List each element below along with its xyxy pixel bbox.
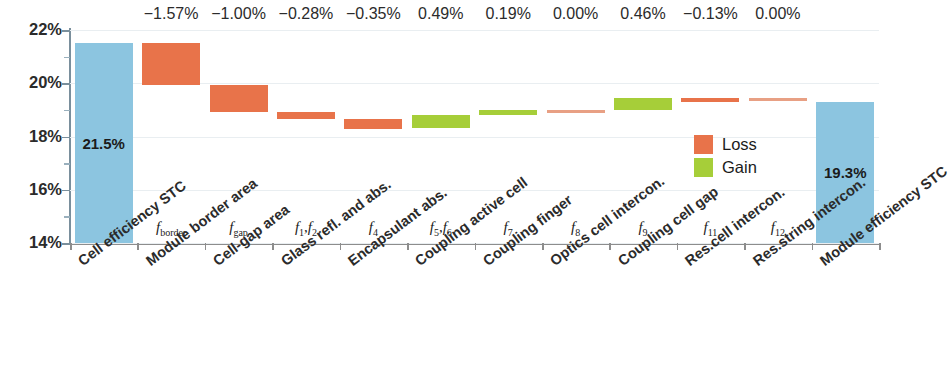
delta-label: −0.35% <box>346 5 401 23</box>
bar-gain <box>614 98 672 110</box>
y-axis-major-tick <box>62 190 70 192</box>
bar-loss <box>344 119 402 128</box>
y-axis-minor-tick <box>64 57 70 58</box>
y-axis-minor-tick <box>64 110 70 111</box>
bar-loss <box>210 85 268 112</box>
delta-label: −0.28% <box>279 5 334 23</box>
legend-label-gain: Gain <box>722 158 757 177</box>
bar-value-label: 21.5% <box>82 135 125 152</box>
bar-gain <box>412 115 470 128</box>
delta-label: 0.00% <box>755 5 800 23</box>
delta-label: 0.19% <box>486 5 531 23</box>
legend-swatch-loss-icon <box>694 135 713 154</box>
y-axis-tick-label: 16% <box>16 180 62 199</box>
delta-label: 0.00% <box>553 5 598 23</box>
delta-label: −1.00% <box>211 5 266 23</box>
delta-label: −1.57% <box>144 5 199 23</box>
bar-gain <box>479 110 537 115</box>
bar-zero <box>547 110 605 113</box>
gridline <box>70 190 879 191</box>
legend-item-loss: Loss <box>694 133 806 156</box>
bar-loss <box>277 112 335 119</box>
y-axis-minor-tick <box>64 163 70 164</box>
y-axis-tick-label: 22% <box>16 20 62 39</box>
legend-label-loss: Loss <box>722 135 757 154</box>
legend-item-gain: Gain <box>694 156 806 179</box>
delta-label: 0.46% <box>620 5 665 23</box>
y-axis-tick-label: 20% <box>16 73 62 92</box>
category-labels: Cell efficiency STCModule border areaCel… <box>0 248 879 388</box>
bar-loss <box>142 43 200 85</box>
legend-swatch-gain-icon <box>694 158 713 177</box>
y-axis-labels: 14%16%18%20%22% <box>0 30 62 243</box>
y-axis-tick-label: 18% <box>16 127 62 146</box>
bar-zero <box>749 98 807 101</box>
y-axis-major-tick <box>62 83 70 85</box>
bar-loss <box>681 98 739 101</box>
x-axis-tick <box>879 243 881 250</box>
delta-label: 0.49% <box>418 5 463 23</box>
gridline <box>70 30 879 31</box>
chart-legend: Loss Gain <box>694 133 806 183</box>
y-axis-major-tick <box>62 243 70 245</box>
y-axis-minor-tick <box>64 216 70 217</box>
y-axis-major-tick <box>62 137 70 139</box>
y-axis-major-tick <box>62 30 70 32</box>
delta-label: −0.13% <box>683 5 738 23</box>
